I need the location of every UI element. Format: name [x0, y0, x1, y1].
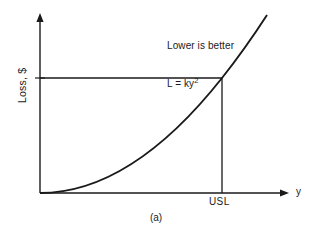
loss-function-figure: Loss, $ Lower is better L = ky2 USL y (a… — [0, 0, 312, 233]
figure-caption: (a) — [0, 212, 312, 224]
y-axis-label: Loss, $ — [16, 81, 28, 103]
annotation-formula-exponent: 2 — [194, 76, 198, 85]
y-axis-arrowhead — [36, 13, 43, 22]
x-axis-arrowhead — [280, 189, 289, 196]
annotation-block: Lower is better L = ky2 — [167, 17, 234, 112]
annotation-formula-prefix: L = ky — [167, 78, 194, 89]
annotation-formula: L = ky2 — [167, 77, 234, 90]
annotation-note: Lower is better — [167, 40, 234, 52]
usl-tick-label: USL — [209, 196, 230, 208]
x-axis-label: y — [296, 186, 301, 198]
plot-canvas — [0, 0, 312, 233]
